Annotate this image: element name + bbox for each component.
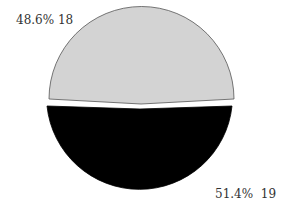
- slice-label-dark: 51.4% 19: [215, 187, 276, 201]
- pie-slice-light: [49, 7, 234, 105]
- pie-chart: [0, 0, 288, 217]
- pie-slice-dark: [47, 106, 232, 189]
- slice-label-light: 48.6% 18: [16, 13, 73, 27]
